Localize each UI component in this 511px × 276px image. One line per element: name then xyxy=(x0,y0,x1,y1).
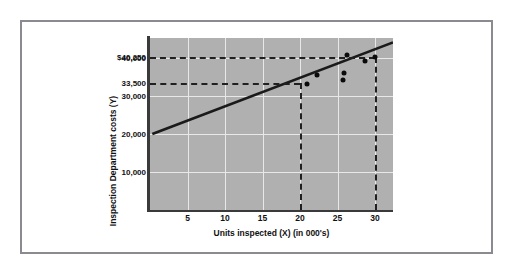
y-tick-label-30000: 30,000 xyxy=(122,92,146,101)
x-tick-label-10: 10 xyxy=(220,213,229,223)
plot-wrapper xyxy=(150,38,393,210)
y-tick-label-10000: 10,000 xyxy=(122,168,146,177)
x-tick-label-5: 5 xyxy=(185,213,190,223)
x-tick-label-30: 30 xyxy=(370,213,379,223)
data-point xyxy=(373,55,378,60)
guide-v-20 xyxy=(300,83,302,210)
guide-h-33500 xyxy=(150,83,300,85)
trend-line-overlay xyxy=(150,38,393,210)
data-point xyxy=(314,72,319,77)
y-tick-label-40000: 40,000 xyxy=(122,54,146,63)
figure-container: Inspection Department costs (Y) $40,2504… xyxy=(0,0,511,276)
data-point xyxy=(341,70,346,75)
y-tick-label-33500: 33,500 xyxy=(122,78,146,87)
y-axis-tick-labels: $40,25040,00033,50030,00020,00010,000 xyxy=(58,0,146,276)
x-tick-label-20: 20 xyxy=(295,213,304,223)
data-point xyxy=(340,77,345,82)
guide-h-40250 xyxy=(150,57,375,59)
x-tick-label-15: 15 xyxy=(258,213,267,223)
y-tick-label-20000: 20,000 xyxy=(122,130,146,139)
guide-v-30 xyxy=(375,57,377,210)
data-point xyxy=(362,59,367,64)
x-tick-label-25: 25 xyxy=(333,213,342,223)
data-point xyxy=(304,81,309,86)
plot-area xyxy=(150,38,393,210)
x-axis-title: Units inspected (X) (in 000's) xyxy=(150,228,393,238)
data-point xyxy=(345,52,350,57)
